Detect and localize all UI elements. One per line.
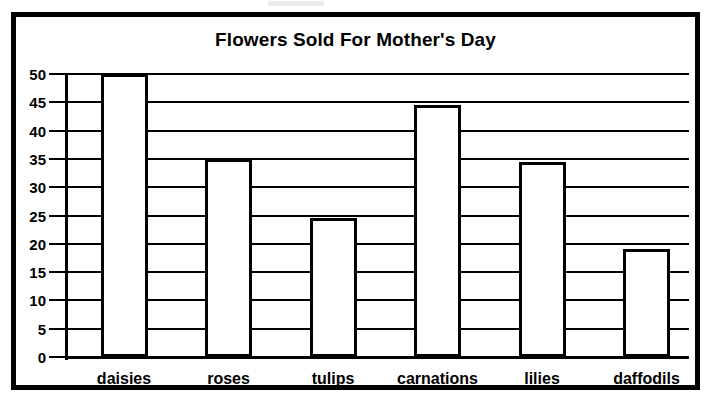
y-axis-tick-label: 50 <box>16 66 46 83</box>
y-axis-tick <box>49 101 67 103</box>
bar-carnations <box>414 105 461 357</box>
x-axis-label-lilies: lilies <box>524 370 560 388</box>
y-axis-tick <box>49 215 67 217</box>
y-axis-tick <box>49 130 67 132</box>
y-axis-tick-label: 35 <box>16 150 46 167</box>
bars-group <box>67 74 689 357</box>
bar-daffodils <box>623 249 670 357</box>
scan-edge-artifact <box>0 0 711 9</box>
x-axis-category-labels: daisiesrosestulipscarnationsliliesdaffod… <box>32 362 711 402</box>
y-axis-tick-label: 10 <box>16 292 46 309</box>
x-axis-label-carnations: carnations <box>397 370 478 388</box>
y-axis-tick <box>49 186 67 188</box>
bar-tulips <box>310 218 357 357</box>
y-axis-tick <box>49 328 67 330</box>
y-axis-tick <box>49 271 67 273</box>
y-axis-tick-label: 45 <box>16 94 46 111</box>
y-axis-tick-label: 40 <box>16 122 46 139</box>
bar-lilies <box>519 162 566 357</box>
y-axis-tick <box>49 158 67 160</box>
plot-area <box>67 74 689 357</box>
y-axis-tick-label: 15 <box>16 264 46 281</box>
y-axis-tick-label: 20 <box>16 235 46 252</box>
x-axis-label-roses: roses <box>207 370 250 388</box>
y-axis-tick-label: 5 <box>16 320 46 337</box>
x-axis-label-daisies: daisies <box>97 370 151 388</box>
y-axis-tick <box>49 356 67 358</box>
x-axis-label-tulips: tulips <box>312 370 355 388</box>
y-axis-tick <box>49 243 67 245</box>
y-axis-tick <box>49 299 67 301</box>
chart-figure-frame: Flowers Sold For Mother's Day 0510152025… <box>11 12 700 390</box>
chart-title: Flowers Sold For Mother's Day <box>16 29 695 51</box>
y-axis-tick <box>49 73 67 75</box>
y-axis-tick-label: 30 <box>16 179 46 196</box>
bar-daisies <box>101 74 148 357</box>
y-axis-tick-label: 25 <box>16 207 46 224</box>
x-axis-label-daffodils: daffodils <box>613 370 680 388</box>
bar-roses <box>205 159 252 357</box>
